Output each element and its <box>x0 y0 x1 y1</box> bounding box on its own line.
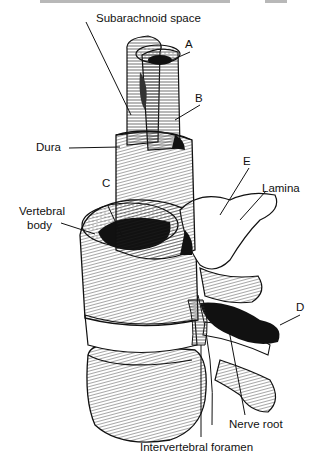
label-nerve-root: Nerve root <box>229 418 283 431</box>
nerve-root-illustration <box>188 300 280 355</box>
label-dura: Dura <box>36 141 61 154</box>
lower-vertebra <box>87 344 206 442</box>
label-e: E <box>243 155 251 168</box>
label-a: A <box>185 38 193 51</box>
label-intervertebral-foramen: Intervertebral foramen <box>140 441 253 454</box>
lesion-a <box>148 55 172 65</box>
label-c: C <box>102 177 110 190</box>
lesion-d <box>200 303 280 344</box>
label-subarachnoid-space: Subarachnoid space <box>96 12 201 25</box>
label-lamina: Lamina <box>262 182 300 195</box>
label-vertebral-body-line1: Vertebral <box>19 205 65 218</box>
label-vertebral-body-line2: body <box>27 219 52 232</box>
label-b: B <box>195 92 203 105</box>
label-d: D <box>296 301 304 314</box>
